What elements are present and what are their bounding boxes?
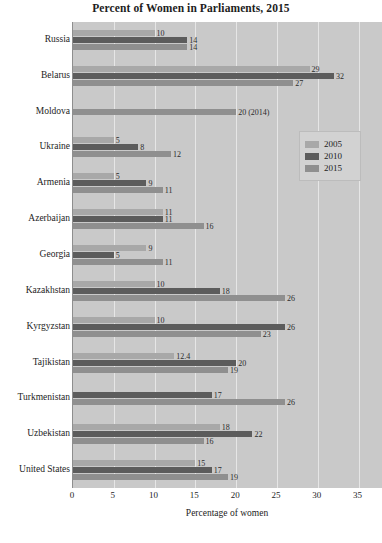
category-label-azerbaijan: Azerbaijan [0,213,70,223]
bar-belarus-2005 [73,66,310,72]
legend-item-2010[interactable]: 2010 [305,151,356,161]
bar-united-states-2005 [73,460,195,466]
gridline-10 [155,22,156,488]
bar-uzbekistan-2010 [73,431,252,437]
legend-swatch-2010 [305,153,319,160]
category-label-moldova: Moldova [0,106,70,116]
legend-item-2015[interactable]: 2015 [305,163,356,173]
bar-value-label: 26 [287,397,295,406]
gridline-25 [277,22,278,488]
bar-value-label: 23 [263,329,271,338]
legend-swatch-2015 [305,165,319,172]
x-axis: 05101520253035 [72,488,382,508]
category-axis: RussiaBelarusMoldovaUkraineArmeniaAzerba… [0,22,70,488]
gridline-5 [114,22,115,488]
x-tick-20: 20 [231,490,240,500]
bar-georgia-2010 [73,252,114,258]
bar-united-states-2015 [73,474,228,480]
x-tick-5: 5 [111,490,116,500]
bar-value-label: 14 [189,42,197,51]
bar-turkmenistan-2010 [73,392,212,398]
legend-item-2005[interactable]: 2005 [305,139,356,149]
category-label-armenia: Armenia [0,177,70,187]
bar-russia-2010 [73,37,187,43]
bar-russia-2005 [73,30,155,36]
bar-kazakhstan-2010 [73,288,220,294]
bar-uzbekistan-2005 [73,424,220,430]
bar-tajikistan-2015 [73,367,228,373]
bar-belarus-2015 [73,80,293,86]
gridline-15 [195,22,196,488]
bar-azerbaijan-2015 [73,223,204,229]
bar-tajikistan-2005 [73,353,174,359]
chart-title: Percent of Women in Parliaments, 2015 [0,2,382,14]
plot-area: 10141429322720 (2014)5812591111111695111… [72,22,382,488]
bar-georgia-2015 [73,259,163,265]
bar-ukraine-2010 [73,144,138,150]
legend-label-2015: 2015 [324,163,342,173]
bar-kyrgyzstan-2005 [73,317,155,323]
bar-kazakhstan-2015 [73,295,285,301]
bar-value-label: 11 [165,186,173,195]
bar-value-label: 26 [287,322,295,331]
bar-value-label: 27 [295,78,303,87]
bar-ukraine-2015 [73,151,171,157]
chart-container: Percent of Women in Parliaments, 2015 10… [0,0,382,543]
bar-tajikistan-2010 [73,360,236,366]
bar-kyrgyzstan-2015 [73,331,261,337]
bar-moldova-2015 [73,109,236,115]
bar-value-label: 19 [230,365,238,374]
x-tick-0: 0 [70,490,75,500]
category-label-russia: Russia [0,34,70,44]
legend-label-2010: 2010 [324,151,342,161]
legend-swatch-2005 [305,141,319,148]
legend-label-2005: 2005 [324,139,342,149]
gridline-35 [359,22,360,488]
bar-kyrgyzstan-2010 [73,324,285,330]
category-label-kyrgyzstan: Kyrgyzstan [0,321,70,331]
category-label-belarus: Belarus [0,70,70,80]
bar-value-label: 12 [173,150,181,159]
bar-armenia-2005 [73,173,114,179]
category-label-tajikistan: Tajikistan [0,357,70,367]
bar-russia-2015 [73,44,187,50]
bar-ukraine-2005 [73,137,114,143]
x-tick-35: 35 [353,490,362,500]
x-tick-25: 25 [271,490,280,500]
x-axis-title: Percentage of women [72,508,382,518]
bar-united-states-2010 [73,467,212,473]
bar-value-label: 22 [254,430,262,439]
category-label-turkmenistan: Turkmenistan [0,392,70,402]
bar-value-label: 16 [206,437,214,446]
bar-azerbaijan-2005 [73,209,163,215]
category-label-united-states: United States [0,464,70,474]
x-tick-30: 30 [312,490,321,500]
bar-armenia-2010 [73,180,146,186]
bar-value-label: 19 [230,473,238,482]
bar-value-label: 11 [165,258,173,267]
bar-turkmenistan-2015 [73,399,285,405]
category-label-georgia: Georgia [0,249,70,259]
bar-value-label: 26 [287,293,295,302]
bar-value-label: 32 [336,71,344,80]
category-label-uzbekistan: Uzbekistan [0,428,70,438]
category-label-kazakhstan: Kazakhstan [0,285,70,295]
bar-georgia-2005 [73,245,146,251]
bar-value-label: 20 [238,358,246,367]
bar-value-label: 20 (2014) [238,107,269,116]
category-label-ukraine: Ukraine [0,141,70,151]
bar-value-label: 9 [148,244,152,253]
bar-armenia-2015 [73,187,163,193]
chart-legend: 200520102015 [299,131,361,181]
gridline-30 [318,22,319,488]
bar-value-label: 16 [206,222,214,231]
bar-kazakhstan-2005 [73,281,155,287]
bar-uzbekistan-2015 [73,438,204,444]
x-tick-10: 10 [149,490,158,500]
bar-azerbaijan-2010 [73,216,163,222]
x-tick-15: 15 [190,490,199,500]
gridline-20 [236,22,237,488]
